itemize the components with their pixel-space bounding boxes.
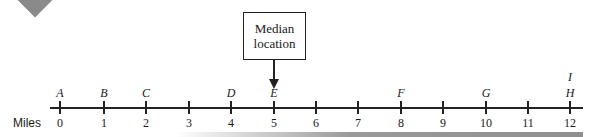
tick-label: 10 bbox=[480, 116, 492, 131]
axis-tick bbox=[230, 101, 231, 114]
tick-label: 8 bbox=[398, 116, 404, 131]
point-label-g: G bbox=[482, 86, 491, 101]
axis-tick bbox=[442, 101, 443, 114]
point-label-b: B bbox=[100, 86, 107, 101]
corner-diamond-decoration bbox=[17, 0, 54, 17]
axis-title: Miles bbox=[13, 116, 41, 130]
axis-tick bbox=[357, 101, 358, 114]
point-label-i: I bbox=[568, 70, 572, 85]
median-location-callout: Median location bbox=[243, 12, 306, 60]
axis-tick bbox=[59, 101, 60, 114]
axis-tick bbox=[103, 101, 104, 114]
axis-tick bbox=[400, 101, 401, 114]
point-label-d: D bbox=[227, 86, 236, 101]
tick-label: 1 bbox=[101, 116, 107, 131]
axis-tick bbox=[485, 101, 486, 114]
tick-label: 11 bbox=[522, 116, 534, 131]
point-label-h: H bbox=[566, 86, 575, 101]
tick-label: 3 bbox=[186, 116, 192, 131]
bottom-gray-bar bbox=[0, 132, 583, 137]
tick-label: 12 bbox=[564, 116, 576, 131]
tick-label: 6 bbox=[313, 116, 319, 131]
point-label-e: E bbox=[270, 86, 277, 101]
axis-tick bbox=[273, 101, 274, 114]
point-label-c: C bbox=[142, 86, 150, 101]
point-label-f: F bbox=[397, 86, 404, 101]
callout-line-1: Median bbox=[255, 21, 295, 36]
tick-label: 0 bbox=[57, 116, 63, 131]
point-label-a: A bbox=[56, 86, 63, 101]
axis-tick bbox=[527, 101, 528, 114]
axis-tick bbox=[188, 101, 189, 114]
callout-arrow-shaft bbox=[273, 60, 275, 80]
tick-label: 5 bbox=[271, 116, 277, 131]
axis-tick bbox=[315, 101, 316, 114]
tick-label: 4 bbox=[228, 116, 234, 131]
tick-label: 7 bbox=[355, 116, 361, 131]
tick-label: 2 bbox=[143, 116, 149, 131]
tick-label: 9 bbox=[440, 116, 446, 131]
axis-tick bbox=[569, 101, 570, 114]
axis-tick bbox=[145, 101, 146, 114]
callout-line-2: location bbox=[254, 36, 296, 51]
